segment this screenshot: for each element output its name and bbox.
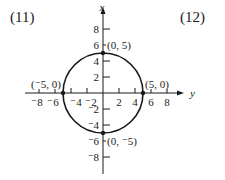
vertical-axis-label: x bbox=[99, 1, 105, 13]
htick-label-neg8: ⁻8 bbox=[31, 96, 43, 108]
circle-graph: x y 8 6 4 2 ⁻2 ⁻4 ⁻6 ⁻8 ⁻8 ⁻6 ⁻4 ⁻2 2 4 … bbox=[0, 0, 225, 180]
htick-label-4: 4 bbox=[132, 96, 138, 108]
vtick-label-2: 2 bbox=[94, 71, 100, 83]
point-0-neg5 bbox=[101, 131, 105, 135]
vtick-label-neg8: ⁻8 bbox=[88, 151, 100, 163]
htick-label-neg4: ⁻4 bbox=[70, 96, 82, 108]
vtick-label-4: 4 bbox=[94, 55, 100, 67]
vtick-label-6: 6 bbox=[94, 39, 100, 51]
htick-label-neg6: ⁻6 bbox=[47, 96, 59, 108]
vtick-label-neg4: ⁻4 bbox=[88, 119, 100, 131]
point-label-0-5: (0, 5) bbox=[107, 39, 131, 52]
point-0-5 bbox=[101, 51, 105, 55]
point-label-5-0: (5, 0) bbox=[145, 78, 169, 91]
point-5-0 bbox=[141, 91, 145, 95]
htick-label-2: 2 bbox=[116, 96, 122, 108]
vtick-label-neg6: ⁻6 bbox=[88, 135, 100, 147]
horizontal-axis-label: y bbox=[189, 87, 195, 99]
htick-label-8: 8 bbox=[164, 96, 170, 108]
point-label-0-neg5: (0, ⁻5) bbox=[107, 135, 137, 148]
htick-label-6: 6 bbox=[148, 96, 154, 108]
vtick-label-8: 8 bbox=[94, 23, 100, 35]
htick-label-neg2: ⁻2 bbox=[85, 96, 97, 108]
point-neg5-0 bbox=[61, 91, 65, 95]
point-label-neg5-0: (⁻5, 0) bbox=[31, 78, 61, 91]
horizontal-axis-arrow-icon bbox=[177, 91, 184, 96]
